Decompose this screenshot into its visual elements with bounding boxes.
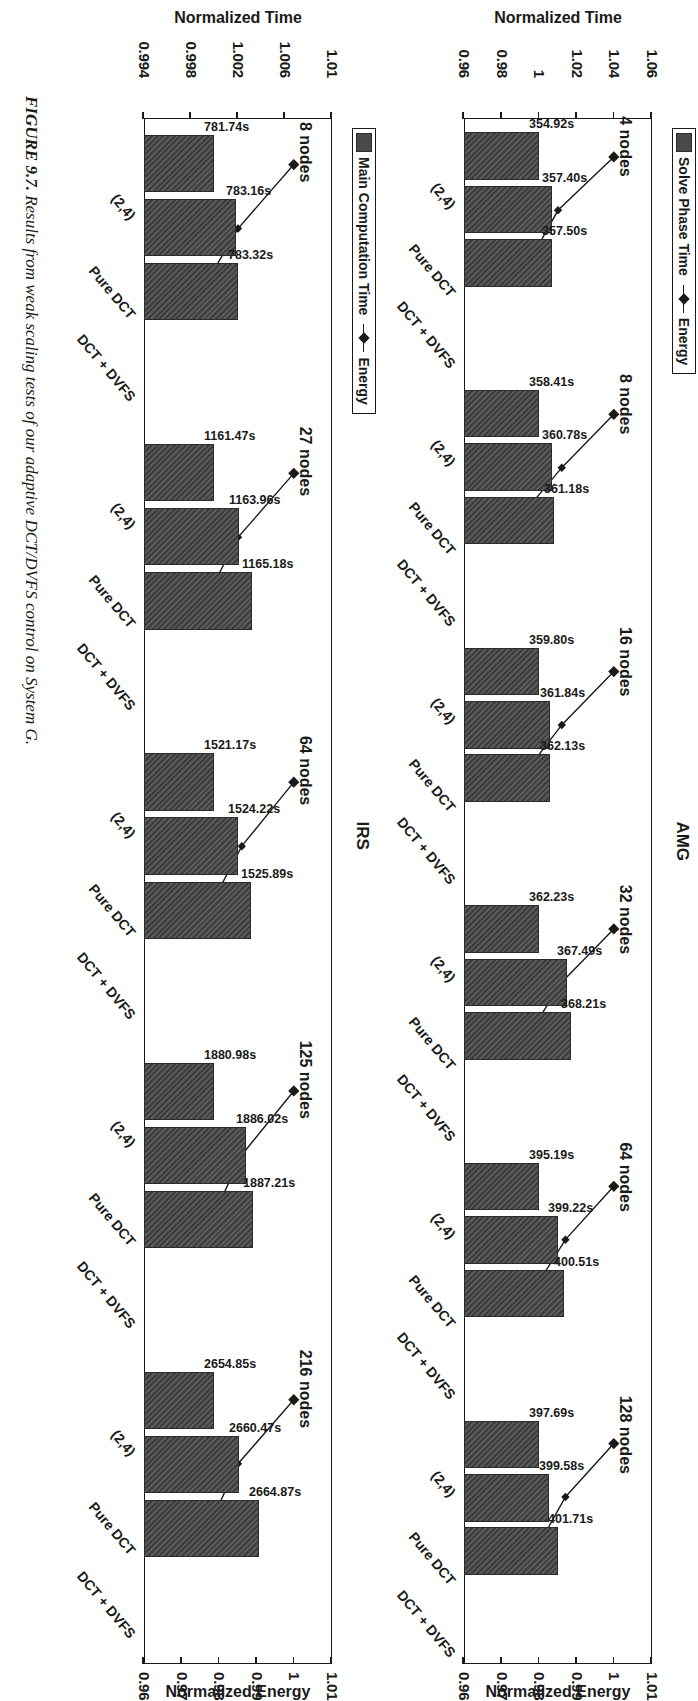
x-axis-category-label: DCT + DVFS <box>74 331 139 404</box>
y2-axis-tick <box>218 1657 220 1664</box>
x-axis-category-label: (2,4) <box>108 190 139 222</box>
y2-axis-tick-label: 1.01 <box>644 1672 661 1700</box>
legend-line-marker-icon <box>679 285 689 313</box>
y-axis-tick-label: 1.01 <box>324 50 341 78</box>
bar-value-label: 2660.47s <box>229 1421 281 1435</box>
legend-irs: Main Computation Time Energy <box>352 128 376 414</box>
y2-axis-tick-label: 1 <box>286 1672 303 1680</box>
x-axis-category-label: DCT + DVFS <box>74 1568 139 1641</box>
bar <box>144 1500 259 1557</box>
x-axis-category-label: Pure DCT <box>86 1190 139 1249</box>
panel-title-irs: IRS <box>352 821 372 849</box>
y2-axis-tick <box>538 1657 540 1664</box>
bar-value-label: 2654.85s <box>205 1357 257 1371</box>
y2-axis-tick-label: 1 <box>606 1672 623 1680</box>
x-axis-category-label: Pure DCT <box>406 1529 459 1588</box>
x-axis-category-label: Pure DCT <box>406 756 459 815</box>
bar <box>144 817 238 874</box>
bar-value-label: 357.50s <box>542 224 587 238</box>
bar <box>464 648 539 696</box>
x-axis-category-label: DCT + DVFS <box>74 1259 139 1332</box>
y2-axis-tick-label: 0.98 <box>211 1672 228 1700</box>
x-axis-category-label: Pure DCT <box>86 1499 139 1558</box>
bar-value-label: 368.21s <box>561 997 606 1011</box>
y2-axis-tick <box>180 1657 182 1664</box>
bar <box>464 1474 549 1522</box>
bar-value-label: 783.32s <box>228 248 273 262</box>
bar-value-label: 362.13s <box>540 739 585 753</box>
bar-value-label: 781.74s <box>205 120 250 134</box>
y-axis-tick <box>189 112 191 119</box>
y-axis-tick-label: 1.04 <box>606 50 623 78</box>
bar <box>464 1270 564 1318</box>
group-label: 27 nodes <box>296 427 314 496</box>
bar <box>144 508 239 565</box>
x-axis-category-label: Pure DCT <box>86 881 139 940</box>
axis-title-normalized-time-irs: Normalized Time <box>174 9 302 27</box>
group-label: 64 nodes <box>296 736 314 805</box>
bar-value-label: 361.18s <box>544 482 589 496</box>
bar-value-label: 354.92s <box>529 117 574 131</box>
y-axis-tick-label: 1.006 <box>277 41 294 78</box>
y2-axis-tick-label: 0.97 <box>173 1672 190 1700</box>
x-axis-category-label: DCT + DVFS <box>394 1329 459 1402</box>
y-axis-tick-label: 1.02 <box>568 50 585 78</box>
group-label: 216 nodes <box>296 1350 314 1428</box>
group-label: 64 nodes <box>616 1142 634 1211</box>
y2-axis-tick <box>330 1657 332 1664</box>
bar <box>464 1421 539 1469</box>
bar-value-label: 401.71s <box>548 1512 593 1526</box>
x-axis-category-label: (2,4) <box>108 500 139 532</box>
legend-item-bar: Solve Phase Time <box>676 133 692 276</box>
chart-panel-irs: IRS Main Computation Time Energy Normali… <box>58 0 378 1698</box>
x-axis-category-label: (2,4) <box>428 695 459 727</box>
figure-caption-text: Results from weak scaling tests of our a… <box>22 195 41 745</box>
x-axis-category-label: Pure DCT <box>406 241 459 300</box>
x-axis-category-label: DCT + DVFS <box>74 949 139 1022</box>
legend-item-bar: Main Computation Time <box>356 133 372 315</box>
group-label: 32 nodes <box>616 885 634 954</box>
axis-title-normalized-time-amg: Normalized Time <box>494 9 622 27</box>
bar <box>464 1012 571 1060</box>
y-axis-tick <box>462 112 464 119</box>
y2-axis-tick <box>575 1657 577 1664</box>
bar <box>144 263 238 320</box>
bar <box>464 1216 558 1264</box>
bar-value-label: 361.84s <box>540 686 585 700</box>
y-axis-tick <box>330 112 332 119</box>
y-axis-tick <box>650 112 652 119</box>
legend-bar-label: Solve Phase Time <box>676 157 692 276</box>
bar <box>464 959 567 1007</box>
y2-axis-tick <box>500 1657 502 1664</box>
bar <box>464 390 539 438</box>
x-axis-category-label: (2,4) <box>108 809 139 841</box>
legend-line-label: Energy <box>676 318 692 365</box>
bar-value-label: 1165.18s <box>242 557 293 571</box>
bar <box>144 572 252 629</box>
chart-panel-amg: AMG Solve Phase Time Energy Normalized T… <box>378 0 698 1698</box>
bar <box>144 444 215 501</box>
legend-line-marker-icon <box>359 324 369 352</box>
x-axis-category-label: (2,4) <box>428 179 459 211</box>
bar <box>144 1372 215 1429</box>
bar-value-label: 783.16s <box>226 184 271 198</box>
y2-axis-tick-label: 0.96 <box>136 1672 153 1700</box>
y2-axis-tick-label: 0.98 <box>531 1672 548 1700</box>
y-axis-tick-label: 0.994 <box>136 41 153 78</box>
bar-value-label: 367.49s <box>557 944 602 958</box>
bar-value-label: 1524.22s <box>228 802 280 816</box>
y-axis-tick <box>236 112 238 119</box>
x-axis-category-label: Pure DCT <box>406 499 459 558</box>
charts-container: AMG Solve Phase Time Energy Normalized T… <box>58 0 698 1698</box>
bar <box>464 186 552 234</box>
bar <box>464 497 554 545</box>
x-axis-category-label: DCT + DVFS <box>394 1072 459 1145</box>
group-label: 128 nodes <box>616 1396 634 1474</box>
x-axis-category-label: (2,4) <box>108 1427 139 1459</box>
bar-value-label: 1887.21s <box>243 1176 295 1190</box>
legend-bar-swatch-icon <box>676 133 692 152</box>
group-label: 125 nodes <box>296 1041 314 1119</box>
bar <box>144 1127 246 1184</box>
legend-item-line: Energy <box>356 324 372 404</box>
